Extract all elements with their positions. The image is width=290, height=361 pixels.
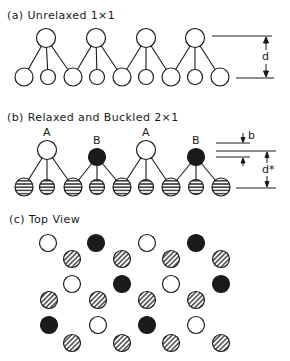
atom-label-b: B (93, 134, 101, 147)
atom-a-up (38, 141, 57, 160)
dimension-label-d: d (262, 50, 269, 63)
panel-c-atoms (40, 235, 230, 352)
atom-label-a: A (43, 126, 51, 139)
diagram-canvas (0, 0, 290, 361)
panel-b-title: (b) Relaxed and Buckled 2×1 (7, 111, 179, 124)
dimension-label-d-star: d* (262, 163, 274, 176)
panel-c-title: (c) Top View (9, 213, 80, 226)
atom-b-down (89, 149, 106, 166)
atom-label-a: A (142, 126, 150, 139)
atom-b-down (188, 149, 205, 166)
atom-label-b: B (192, 134, 200, 147)
dimension-label-b: b (248, 129, 255, 142)
atom-a-up (137, 141, 156, 160)
panel-a-title: (a) Unrelaxed 1×1 (7, 9, 115, 22)
